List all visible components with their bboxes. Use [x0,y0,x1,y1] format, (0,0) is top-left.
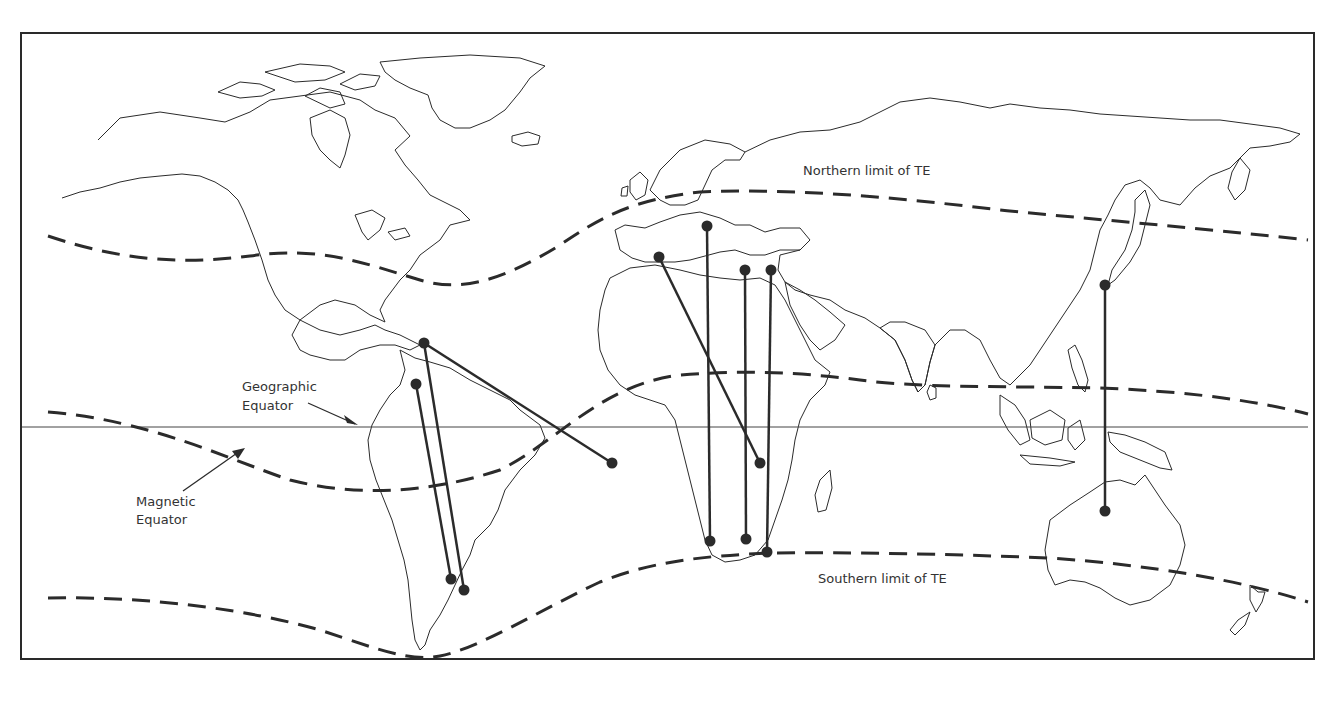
philippines-outline [1068,345,1088,392]
station-marker [446,574,457,585]
madagascar-outline [815,470,832,512]
magnetic-equator-label-1: Magnetic [136,494,196,509]
propagation-paths [416,226,1105,590]
new-zealand-outline [1230,585,1265,635]
station-marker [705,536,716,547]
arctic-islands [218,64,380,108]
magnetic-equator-label-2: Equator [136,512,188,527]
station-marker [1100,280,1111,291]
path-greece-south-africa [745,270,746,539]
station-marker [459,585,470,596]
scandinavia-outline [650,140,745,205]
hudson-bay [310,110,350,168]
stations [411,221,1111,596]
arabia-outline [785,282,845,350]
kamchatka-outline [1228,158,1250,200]
new-guinea-outline [1108,432,1172,470]
station-marker [702,221,713,232]
british-isles-outline [621,172,648,200]
north-america-outline [62,92,470,360]
africa-outline [598,265,830,562]
arrowhead-icon [232,448,245,459]
world-map: Northern limit of TE Southern limit of T… [0,0,1343,707]
greenland-outline [380,55,545,128]
southern-limit-label: Southern limit of TE [818,571,947,586]
annotation-arrows [183,403,358,491]
station-marker [740,265,751,276]
station-marker [1100,506,1111,517]
magnetic-equator-arrow [183,451,240,491]
geographic-equator-label-1: Geographic [242,379,317,394]
station-marker [755,458,766,469]
iceland-outline [512,132,540,146]
path-caribbean-atlantic [424,343,612,463]
figure-caption-cropped [20,680,1315,707]
japan-outline [1108,190,1150,285]
northern-limit-label: Northern limit of TE [803,163,930,178]
arrowhead-icon [344,415,358,425]
path-cyprus-south-africa [767,270,771,552]
indonesia-outline [1000,395,1085,466]
station-marker [419,338,430,349]
southern-limit-curve [48,553,1308,658]
geographic-equator-label-2: Equator [242,398,294,413]
station-marker [762,547,773,558]
station-marker [766,265,777,276]
path-italy-southwest-africa [707,226,710,541]
australia-outline [1045,475,1185,605]
station-marker [411,379,422,390]
station-marker [607,458,618,469]
great-lakes [355,210,410,240]
sri-lanka-outline [927,385,936,400]
asia-outline [745,98,1300,392]
station-marker [741,534,752,545]
south-america-outline [368,350,545,650]
station-marker [654,252,665,263]
